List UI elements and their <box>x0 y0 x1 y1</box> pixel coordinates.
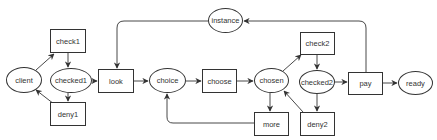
edge-client-check1 <box>36 54 54 70</box>
edge-chosen-check2 <box>283 55 301 71</box>
node-label: deny1 <box>58 110 78 119</box>
node-label: check1 <box>56 37 80 46</box>
node-deny2: deny2 <box>300 112 335 136</box>
node-label: ready <box>406 79 425 88</box>
node-label: deny2 <box>307 120 327 129</box>
node-label: instance <box>212 16 240 25</box>
node-choose: choose <box>202 69 237 93</box>
node-chosen: chosen <box>254 68 289 93</box>
node-ready: ready <box>398 71 433 95</box>
edge-more-choice <box>167 94 254 123</box>
node-check1: check1 <box>50 29 86 53</box>
node-choice: choice <box>149 68 186 93</box>
node-checked1: checked1 <box>50 68 92 93</box>
node-look: look <box>98 69 134 93</box>
node-check2: check2 <box>300 32 335 55</box>
node-client: client <box>6 67 42 93</box>
edge-instance-look <box>117 21 208 68</box>
node-label: look <box>109 77 123 86</box>
node-instance: instance <box>208 8 243 33</box>
node-label: client <box>15 76 33 85</box>
node-label: check2 <box>306 39 330 48</box>
edge-deny2-chosen <box>284 91 303 112</box>
node-label: pay <box>359 79 371 88</box>
node-label: checked1 <box>55 76 87 85</box>
node-label: choose <box>207 77 231 86</box>
node-label: choice <box>157 76 179 85</box>
node-label: more <box>263 120 280 129</box>
node-label: chosen <box>259 76 283 85</box>
node-deny1: deny1 <box>50 102 86 126</box>
node-more: more <box>254 112 289 136</box>
node-label: checked2 <box>301 78 333 87</box>
node-checked2: checked2 <box>299 70 335 94</box>
node-pay: pay <box>348 72 383 95</box>
